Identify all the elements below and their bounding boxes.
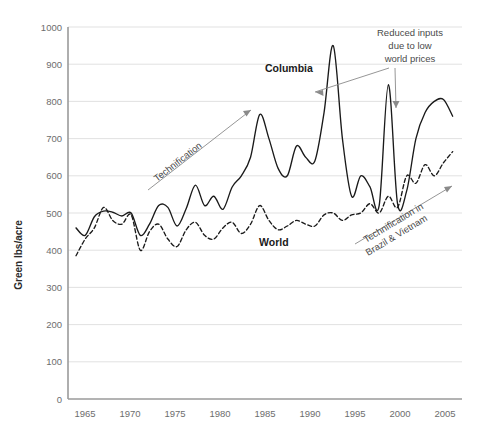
y-tick-label: 0 [57,394,62,405]
chart-container: 1000 900 800 700 600 500 400 300 200 100… [0,0,485,446]
x-tick-label: 1995 [344,408,365,419]
y-tick-label: 900 [46,59,62,70]
gridlines [68,27,462,362]
y-axis-title: Green lbs/acre [13,220,24,290]
x-tick-label: 2000 [389,408,410,419]
brazil-vietnam-arrow-head [444,186,452,193]
annotation-technification: Technification [148,110,251,190]
x-tick-label: 1980 [209,408,230,419]
y-tick-label: 100 [46,356,62,367]
x-tick-label: 1975 [164,408,185,419]
reduced-inputs-arrow-head-right [393,101,400,108]
y-tick-label: 400 [46,245,62,256]
x-tick-label: 1990 [299,408,320,419]
technification-label: Technification [151,140,203,184]
y-tick-label: 800 [46,96,62,107]
y-tick-label: 200 [46,319,62,330]
y-tick-label: 1000 [41,22,62,33]
x-tick-label: 1985 [254,408,275,419]
reduced-inputs-line-1: Reduced inputs [377,27,443,38]
series-label-world: World [259,236,289,248]
x-tick-label: 2005 [434,408,455,419]
x-tick-label: 1970 [119,408,140,419]
y-tick-label: 500 [46,208,62,219]
annotation-technification-brazil-vietnam: Technification in Brazil & Vietnam [355,186,452,258]
reduced-inputs-line-2: due to low [388,40,431,51]
series-label-columbia: Columbia [265,62,313,74]
reduced-inputs-line-3: world prices [384,53,436,64]
reduced-inputs-arrow-line-left [315,68,389,92]
y-tick-label: 700 [46,133,62,144]
x-tick-label: 1965 [74,408,95,419]
line-chart: 1000 900 800 700 600 500 400 300 200 100… [0,0,485,446]
y-tick-label: 600 [46,170,62,181]
y-tick-label: 300 [46,282,62,293]
annotation-reduced-inputs: Reduced inputs due to low world prices [315,27,443,108]
y-axis-tick-labels: 1000 900 800 700 600 500 400 300 200 100… [41,22,62,405]
x-axis-tick-labels: 1965 1970 1975 1980 1985 1990 1995 2000 … [74,408,455,419]
